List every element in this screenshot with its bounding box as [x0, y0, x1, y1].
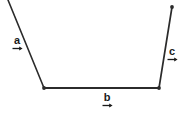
vector-path-canvas [0, 0, 182, 115]
vector-label-a-letter: a [8, 35, 26, 45]
vector-label-c: c [163, 46, 181, 62]
vertex-marker-end-point [170, 5, 174, 9]
vertex-marker-lower-left [42, 86, 46, 90]
vector-arrow-c-icon [167, 57, 178, 62]
vector-label-a: a [8, 35, 26, 51]
vector-diagram-figure: a b c [0, 0, 182, 115]
vector-label-b-letter: b [98, 92, 116, 102]
vertex-marker-lower-right [157, 86, 161, 90]
vector-label-c-letter: c [163, 46, 181, 56]
vector-label-b: b [98, 92, 116, 108]
vector-arrow-b-icon [102, 103, 113, 108]
vector-arrow-a-icon [12, 46, 23, 51]
